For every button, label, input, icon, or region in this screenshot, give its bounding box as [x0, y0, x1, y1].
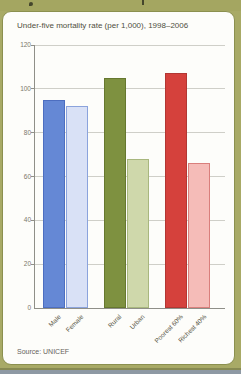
y-axis-label: 40 — [5, 216, 31, 223]
chart-title: Under-five mortality rate (per 1,000), 1… — [17, 21, 226, 31]
x-axis-label: Female — [65, 313, 85, 333]
y-axis-tick — [31, 220, 35, 221]
y-axis-tick — [31, 176, 35, 177]
bar-male — [43, 100, 65, 308]
source-note: Source: UNICEF — [17, 348, 69, 355]
y-axis-tick — [31, 88, 35, 89]
y-axis-label: 100 — [5, 85, 31, 92]
bar-rural — [104, 78, 126, 308]
x-axis-label: Male — [47, 313, 62, 328]
cropped-text-fragment — [142, 0, 144, 5]
plot-area — [34, 45, 225, 309]
y-axis-label: 120 — [5, 41, 31, 48]
gridline — [35, 45, 225, 46]
y-axis-label: 80 — [5, 129, 31, 136]
y-axis-label: 0 — [5, 304, 31, 311]
y-axis-tick — [31, 132, 35, 133]
bar-richest-40- — [188, 163, 210, 308]
x-axis-label: Rural — [107, 313, 123, 329]
y-axis-tick — [31, 45, 35, 46]
x-axis-label: Urban — [128, 313, 145, 330]
y-axis-label: 20 — [5, 260, 31, 267]
cropped-figure-header-band — [0, 0, 241, 11]
gridline — [35, 88, 225, 89]
figure-panel: Under-five mortality rate (per 1,000), 1… — [0, 0, 241, 374]
chart-card: Under-five mortality rate (per 1,000), 1… — [2, 11, 235, 365]
y-axis-label: 60 — [5, 173, 31, 180]
bar-urban — [127, 159, 149, 308]
bar-female — [66, 106, 88, 308]
bar-poorest-60- — [165, 73, 187, 308]
page-edge-strip — [0, 370, 241, 374]
cropped-text-fragment — [29, 2, 33, 6]
y-axis-tick — [31, 264, 35, 265]
